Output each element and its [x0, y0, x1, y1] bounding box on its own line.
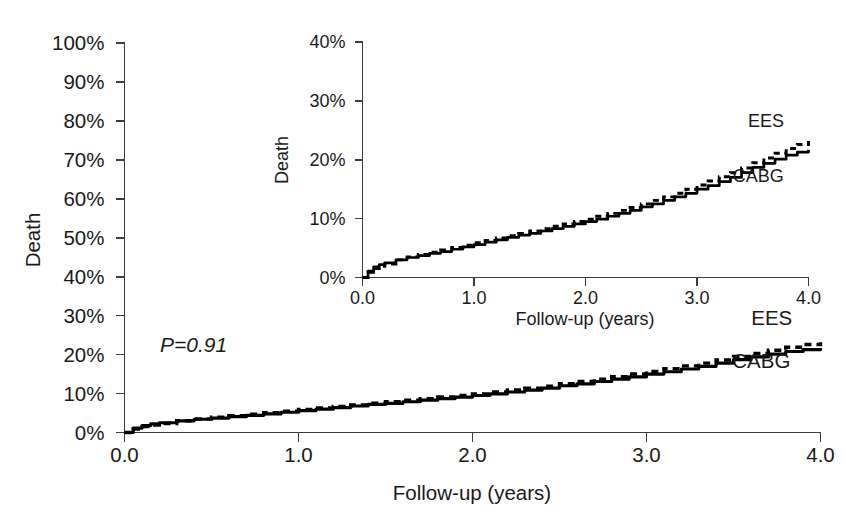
y-tick-label: 80%	[63, 109, 104, 132]
x-tick-label: 4.0	[796, 288, 821, 308]
y-tick-label: 30%	[63, 304, 104, 327]
x-tick-label: 2.0	[573, 288, 598, 308]
main-axes	[118, 43, 821, 433]
y-tick-label: 0%	[319, 268, 345, 288]
inset-x-ticks	[363, 278, 809, 286]
x-tick-label: 4.0	[806, 443, 835, 466]
main-series-label-cabg: CABG	[732, 349, 790, 372]
figure-root: 0%10%20%30%40%50%60%70%80%90%100% 0.01.0…	[0, 0, 861, 525]
kaplan-meier-chart: 0%10%20%30%40%50%60%70%80%90%100% 0.01.0…	[0, 0, 861, 525]
y-tick-label: 30%	[309, 91, 345, 111]
inset-series-label-ees: EES	[748, 111, 784, 131]
y-tick-label: 20%	[63, 343, 104, 366]
main-x-tick-labels: 0.01.02.03.04.0	[110, 443, 835, 466]
x-tick-label: 0.0	[110, 443, 139, 466]
inset-series-label-cabg: CABG	[733, 166, 784, 186]
y-tick-label: 70%	[63, 148, 104, 171]
x-tick-label: 3.0	[684, 288, 709, 308]
x-tick-label: 0.0	[350, 288, 375, 308]
inset-y-tick-labels: 0%10%20%30%40%	[309, 32, 345, 288]
inset-y-ticks	[355, 42, 363, 278]
x-tick-label: 1.0	[461, 288, 486, 308]
inset-x-axis-title: Follow-up (years)	[515, 309, 654, 329]
y-tick-label: 10%	[63, 382, 104, 405]
main-chart: 0%10%20%30%40%50%60%70%80%90%100% 0.01.0…	[21, 31, 835, 504]
y-tick-label: 10%	[309, 209, 345, 229]
main-x-axis-title: Follow-up (years)	[393, 481, 551, 504]
inset-x-tick-labels: 0.01.02.03.04.0	[350, 288, 821, 308]
y-tick-label: 20%	[309, 150, 345, 170]
main-x-ticks	[125, 433, 821, 442]
y-tick-label: 0%	[75, 421, 105, 444]
y-tick-label: 100%	[52, 31, 104, 54]
y-tick-label: 50%	[63, 226, 104, 249]
x-tick-label: 2.0	[458, 443, 487, 466]
main-series-label-ees: EES	[751, 306, 792, 329]
main-y-tick-labels: 0%10%20%30%40%50%60%70%80%90%100%	[52, 31, 104, 444]
x-tick-label: 3.0	[632, 443, 661, 466]
x-tick-label: 1.0	[284, 443, 313, 466]
y-tick-label: 40%	[63, 265, 104, 288]
main-y-ticks	[116, 43, 125, 433]
main-p-value-annotation: P=0.91	[160, 333, 227, 356]
main-y-axis-title: Death	[21, 213, 44, 268]
inset-chart: 0%10%20%30%40% 0.01.02.03.04.0 Death Fol…	[272, 32, 821, 329]
inset-y-axis-title: Death	[272, 136, 292, 184]
inset-axes	[356, 42, 809, 278]
y-tick-label: 40%	[309, 32, 345, 52]
y-tick-label: 60%	[63, 187, 104, 210]
y-tick-label: 90%	[63, 70, 104, 93]
